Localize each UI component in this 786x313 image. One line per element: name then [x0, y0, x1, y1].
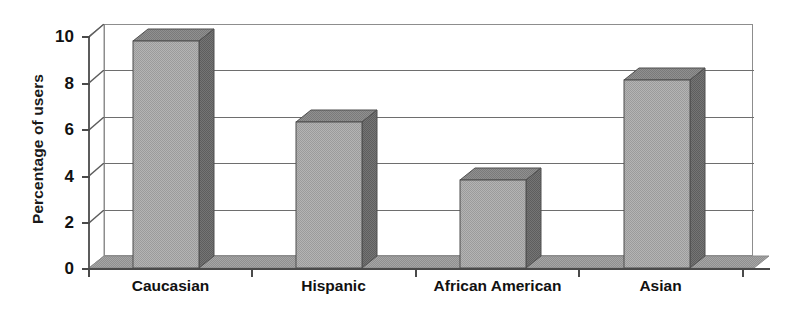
tick-connector-2	[89, 210, 106, 229]
y-tick-mark-6	[82, 129, 90, 131]
x-tick-mark-1	[251, 268, 253, 277]
bar-hispanic[interactable]	[296, 110, 378, 270]
y-tick-label-6: 6	[34, 121, 74, 138]
chart-left-side-wall	[89, 24, 105, 269]
y-tick-label-2: 2	[34, 214, 74, 231]
tick-connector-10	[89, 24, 106, 43]
bar-caucasian[interactable]	[133, 29, 215, 270]
y-tick-label-4: 4	[34, 168, 74, 185]
y-tick-mark-2	[82, 222, 90, 224]
x-tick-mark-3	[578, 268, 580, 277]
bar-chart: Percentage of users	[0, 0, 786, 313]
x-axis-line	[88, 268, 770, 270]
y-tick-mark-4	[82, 176, 90, 178]
tick-connector-6	[89, 117, 106, 136]
y-tick-label-8: 8	[34, 75, 74, 92]
y-tick-label-0: 0	[34, 260, 74, 277]
x-axis-label-hispanic: Hispanic	[252, 277, 415, 295]
bar-african-american[interactable]	[460, 168, 542, 270]
y-tick-label-10: 10	[34, 28, 74, 45]
tick-connector-4	[89, 163, 106, 182]
x-tick-mark-0	[88, 268, 90, 277]
y-tick-mark-10	[82, 36, 90, 38]
x-tick-mark-4	[742, 268, 744, 277]
x-axis-label-asian: Asian	[579, 277, 742, 295]
x-axis-label-caucasian: Caucasian	[89, 277, 252, 295]
tick-connector-8	[89, 70, 106, 89]
plot-area: 10 8 6 4 2 0 Caucasian Hispanic African …	[0, 0, 786, 313]
x-axis-label-african-american: African American	[416, 277, 579, 295]
y-tick-mark-8	[82, 83, 90, 85]
x-tick-mark-2	[415, 268, 417, 277]
bar-asian[interactable]	[624, 68, 706, 270]
